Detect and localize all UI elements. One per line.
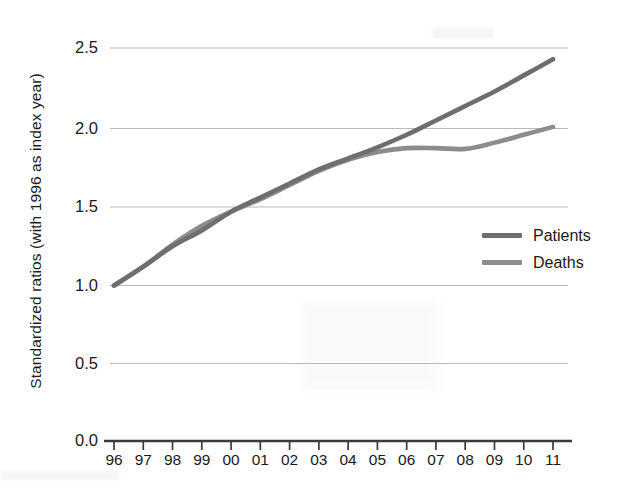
x-axis-tick-label: 10 <box>509 452 539 468</box>
x-axis-tick-label: 11 <box>538 452 568 468</box>
gridlines <box>110 48 568 364</box>
chart-figure: Standardized ratios (with 1996 as index … <box>0 0 622 498</box>
y-axis-tick-label: 0.0 <box>54 432 98 449</box>
legend-label: Patients <box>533 227 591 245</box>
x-axis-tick-label: 00 <box>216 452 246 468</box>
chart-legend: PatientsDeaths <box>482 222 612 276</box>
x-axis-tick-label: 03 <box>304 452 334 468</box>
legend-item-patients: Patients <box>482 222 612 249</box>
legend-swatch <box>482 233 522 238</box>
legend-swatch <box>482 260 522 265</box>
y-axis-tick-labels: 0.00.51.01.52.02.5 <box>48 0 98 498</box>
y-axis-tick-label: 2.5 <box>54 39 98 56</box>
y-axis-tick-label: 0.5 <box>54 355 98 372</box>
x-axis-tick-label: 07 <box>421 452 451 468</box>
x-axis-ticks <box>114 442 553 450</box>
x-axis-tick-labels: 96979899000102030405060708091011 <box>0 452 622 478</box>
x-axis-tick-label: 06 <box>392 452 422 468</box>
x-axis-tick-label: 98 <box>158 452 188 468</box>
x-axis-tick-label: 02 <box>275 452 305 468</box>
y-axis-tick-label: 2.0 <box>54 120 98 137</box>
legend-label: Deaths <box>533 254 584 272</box>
x-axis-tick-label: 08 <box>450 452 480 468</box>
x-axis-tick-label: 01 <box>245 452 275 468</box>
x-axis-tick-label: 05 <box>362 452 392 468</box>
x-axis-tick-label: 99 <box>187 452 217 468</box>
x-axis-tick-label: 04 <box>333 452 363 468</box>
legend-item-deaths: Deaths <box>482 249 612 276</box>
x-axis-tick-label: 97 <box>128 452 158 468</box>
y-axis-tick-label: 1.0 <box>54 277 98 294</box>
y-axis-tick-label: 1.5 <box>54 198 98 215</box>
x-axis-tick-label: 09 <box>479 452 509 468</box>
x-axis-tick-label: 96 <box>99 452 129 468</box>
